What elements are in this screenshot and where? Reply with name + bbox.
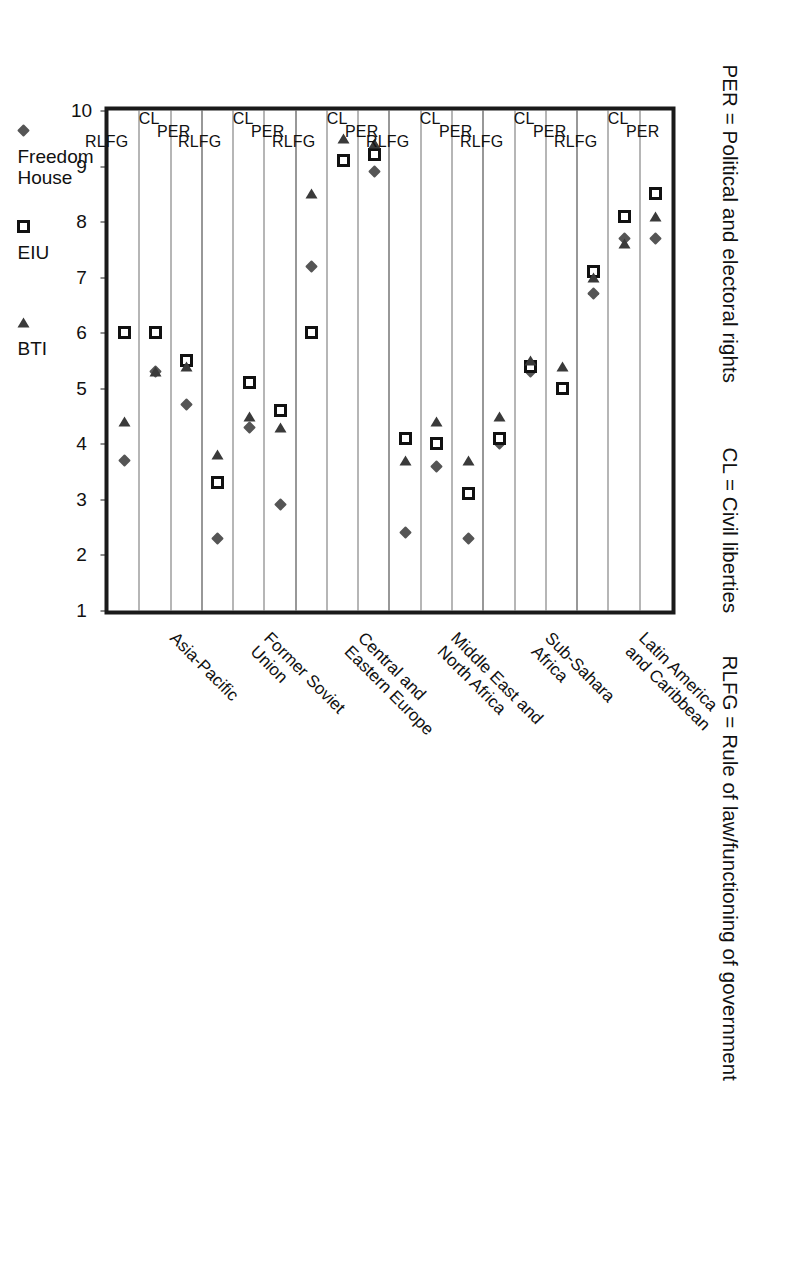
value-tick-mark bbox=[100, 388, 107, 389]
data-point-eiu bbox=[336, 154, 349, 167]
definition-per: PER = Political and electoral rights bbox=[717, 64, 741, 383]
indicator-label-per: PER bbox=[626, 123, 660, 141]
indicator-label-cl: CL bbox=[326, 110, 347, 128]
gridline bbox=[138, 110, 139, 610]
gridline bbox=[482, 110, 483, 610]
gridline bbox=[576, 110, 577, 610]
definition-captions: PER = Political and electoral rights CL … bbox=[697, 0, 793, 1273]
data-point-bti bbox=[618, 238, 630, 248]
data-point-fh bbox=[242, 420, 255, 433]
gridline bbox=[263, 110, 264, 610]
data-point-fh bbox=[649, 231, 662, 244]
gridline bbox=[607, 110, 608, 610]
data-point-bti bbox=[649, 211, 661, 221]
indicator-label-per: PER bbox=[251, 123, 285, 141]
value-tick-mark bbox=[100, 332, 107, 333]
value-tick-mark bbox=[100, 499, 107, 500]
indicator-label-per: PER bbox=[532, 123, 566, 141]
data-point-fh bbox=[305, 259, 318, 272]
data-point-eiu bbox=[399, 431, 412, 444]
gridline bbox=[639, 110, 640, 610]
value-tick-mark bbox=[100, 610, 107, 611]
data-point-fh bbox=[399, 526, 412, 539]
data-point-fh bbox=[368, 165, 381, 178]
data-point-bti bbox=[462, 455, 474, 465]
data-point-fh bbox=[274, 498, 287, 511]
gridline bbox=[420, 110, 421, 610]
data-point-fh bbox=[461, 531, 474, 544]
data-point-bti bbox=[243, 411, 255, 421]
gridline bbox=[545, 110, 546, 610]
value-tick-mark bbox=[100, 166, 107, 167]
indicator-label-cl: CL bbox=[232, 110, 253, 128]
data-point-eiu bbox=[555, 381, 568, 394]
definition-rlfg: RLFG = Rule of law/functioning of govern… bbox=[717, 655, 741, 1080]
chart-legend: Freedom HouseEIUBTI bbox=[3, 106, 87, 626]
data-point-bti bbox=[149, 366, 161, 376]
data-point-bti bbox=[211, 449, 223, 459]
gridline bbox=[514, 110, 515, 610]
data-point-eiu bbox=[305, 326, 318, 339]
rotated-page-stage: PER = Political and electoral rights CL … bbox=[0, 0, 793, 1273]
data-point-eiu bbox=[117, 326, 130, 339]
data-point-fh bbox=[117, 454, 130, 467]
region-label: Asia-Pacific bbox=[165, 628, 241, 704]
indicator-label-per: PER bbox=[344, 123, 378, 141]
data-point-bti bbox=[274, 422, 286, 432]
legend-marker-eiu bbox=[17, 220, 30, 233]
data-point-eiu bbox=[461, 487, 474, 500]
gridline bbox=[451, 110, 452, 610]
data-point-bti bbox=[118, 416, 130, 426]
scatter-plot-area bbox=[104, 106, 675, 614]
data-point-fh bbox=[180, 398, 193, 411]
gridline bbox=[389, 110, 390, 610]
legend-marker-fh bbox=[17, 124, 30, 137]
gridline bbox=[357, 110, 358, 610]
data-point-fh bbox=[211, 531, 224, 544]
region-label: Middle East and North Africa bbox=[434, 628, 547, 741]
data-point-eiu bbox=[148, 326, 161, 339]
data-point-eiu bbox=[492, 431, 505, 444]
region-label: Sub-Sahara Africa bbox=[527, 628, 618, 719]
definition-cl: CL = Civil liberties bbox=[717, 447, 741, 613]
data-point-eiu bbox=[430, 437, 443, 450]
value-tick-mark bbox=[100, 443, 107, 444]
gridline bbox=[232, 110, 233, 610]
value-tick-mark bbox=[100, 554, 107, 555]
data-point-bti bbox=[524, 355, 536, 365]
data-point-eiu bbox=[274, 404, 287, 417]
indicator-label-cl: CL bbox=[607, 110, 628, 128]
region-label: Central and Eastern Europe bbox=[340, 628, 450, 738]
data-point-eiu bbox=[649, 187, 662, 200]
legend-label: BTI bbox=[17, 338, 47, 359]
legend-label: Freedom House bbox=[17, 146, 93, 187]
data-point-bti bbox=[556, 361, 568, 371]
legend-label: EIU bbox=[17, 242, 49, 263]
data-point-eiu bbox=[618, 209, 631, 222]
value-tick-mark bbox=[100, 277, 107, 278]
indicator-label-per: PER bbox=[438, 123, 472, 141]
indicator-label-per: PER bbox=[157, 123, 191, 141]
data-point-bti bbox=[493, 411, 505, 421]
gridline bbox=[201, 110, 202, 610]
data-point-fh bbox=[430, 459, 443, 472]
gridline bbox=[326, 110, 327, 610]
data-point-bti bbox=[399, 455, 411, 465]
data-point-bti bbox=[180, 361, 192, 371]
indicator-label-cl: CL bbox=[420, 110, 441, 128]
data-point-bti bbox=[587, 272, 599, 282]
data-point-eiu bbox=[242, 376, 255, 389]
indicator-label-cl: CL bbox=[138, 110, 159, 128]
indicator-label-cl: CL bbox=[513, 110, 534, 128]
region-label: Former Soviet Union bbox=[246, 628, 348, 730]
gridline bbox=[170, 110, 171, 610]
data-point-bti bbox=[430, 416, 442, 426]
gridline bbox=[295, 110, 296, 610]
data-point-bti bbox=[305, 188, 317, 198]
value-tick-mark bbox=[100, 221, 107, 222]
legend-marker-bti bbox=[17, 317, 29, 327]
data-point-eiu bbox=[211, 476, 224, 489]
data-point-fh bbox=[586, 287, 599, 300]
value-tick-mark bbox=[100, 110, 107, 111]
